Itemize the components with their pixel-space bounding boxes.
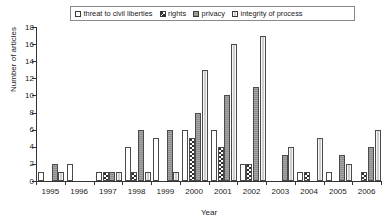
bar-2001-privacy	[224, 95, 230, 181]
bar-1995-threat	[38, 172, 44, 181]
bar-group-2006	[355, 27, 381, 181]
bar-2002-threat	[240, 164, 246, 181]
x-tick-mark	[122, 181, 123, 185]
bar-2006-rights	[361, 172, 367, 181]
y-tick-label: 2	[30, 159, 34, 168]
bar-group-1996	[67, 27, 93, 181]
bar-2002-integrity	[260, 36, 266, 181]
y-tick-label: 6	[30, 125, 34, 134]
bar-1998-rights	[131, 172, 137, 181]
bar-1998-threat	[125, 147, 131, 181]
y-tick-label: 12	[25, 74, 34, 83]
bar-group-2001	[211, 27, 237, 181]
bar-2005-privacy	[339, 155, 345, 181]
bar-1997-rights	[103, 172, 109, 181]
x-tick-mark	[295, 181, 296, 185]
bar-2000-privacy	[195, 113, 201, 181]
bar-2005-integrity	[346, 164, 352, 181]
bar-1999-privacy	[167, 130, 173, 181]
bar-1995-integrity	[58, 172, 64, 181]
x-tick-mark	[94, 181, 95, 185]
y-tick-label: 8	[30, 108, 34, 117]
bar-2000-rights	[189, 138, 195, 181]
y-tick-label: 10	[25, 91, 34, 100]
bar-2006-privacy	[368, 147, 374, 181]
bar-2005-threat	[326, 172, 332, 181]
bar-1999-integrity	[173, 172, 179, 181]
y-tick-label: 14	[25, 57, 34, 66]
axes: 024681012141618 199519961997199819992000…	[36, 27, 382, 182]
y-axis-label: Number of articles	[9, 0, 18, 125]
bar-group-2003	[268, 27, 294, 181]
bar-group-2005	[326, 27, 352, 181]
bar-group-1998	[125, 27, 151, 181]
bar-2002-privacy	[253, 87, 259, 181]
bar-group-1995	[38, 27, 64, 181]
y-tick-label: 16	[25, 40, 34, 49]
bar-group-2002	[240, 27, 266, 181]
bar-1997-threat	[96, 172, 102, 181]
x-tick-mark	[151, 181, 152, 185]
x-tick-mark	[36, 181, 37, 185]
bar-1998-integrity	[145, 172, 151, 181]
x-tick-mark	[180, 181, 181, 185]
bar-2001-threat	[211, 130, 217, 181]
bar-2004-rights	[304, 172, 310, 181]
x-tick-mark	[209, 181, 210, 185]
bar-2001-rights	[218, 147, 224, 181]
y-tick-label: 18	[25, 23, 34, 32]
bar-2003-integrity	[288, 147, 294, 181]
bar-2002-rights	[246, 164, 252, 181]
y-tick-label: 4	[30, 142, 34, 151]
bar-2004-integrity	[317, 138, 323, 181]
x-tick-mark	[381, 181, 382, 185]
x-tick-mark	[352, 181, 353, 185]
bar-1999-threat	[153, 138, 159, 181]
bar-group-2004	[297, 27, 323, 181]
x-tick-mark	[237, 181, 238, 185]
bar-2001-integrity	[231, 44, 237, 181]
bar-2000-threat	[182, 130, 188, 181]
x-tick-mark	[266, 181, 267, 185]
y-tick-label: 0	[30, 177, 34, 186]
bar-1996-threat	[67, 164, 73, 181]
x-tick-mark	[65, 181, 66, 185]
bar-1998-privacy	[138, 130, 144, 181]
bar-1997-integrity	[116, 172, 122, 181]
bar-1997-privacy	[109, 172, 115, 181]
bar-2000-integrity	[202, 70, 208, 181]
x-tick-mark	[324, 181, 325, 185]
x-tick-label-2006: 2006	[347, 187, 387, 196]
bar-1995-privacy	[52, 164, 58, 181]
x-axis-label: Year	[36, 208, 382, 217]
bar-group-1997	[96, 27, 122, 181]
bar-series-container	[37, 27, 382, 182]
bar-2006-integrity	[375, 130, 381, 181]
bar-group-2000	[182, 27, 208, 181]
bar-2004-threat	[297, 172, 303, 181]
bar-group-1999	[153, 27, 179, 181]
bar-2003-privacy	[282, 155, 288, 181]
chart-plot-area: Number of articles Year 024681012141618 …	[0, 0, 390, 222]
